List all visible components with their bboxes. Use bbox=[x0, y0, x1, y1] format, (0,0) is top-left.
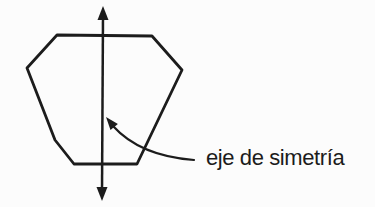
polygon-shape bbox=[27, 35, 182, 164]
axis-arrowhead-up-icon bbox=[98, 6, 109, 20]
axis-arrowhead-down-icon bbox=[97, 187, 108, 201]
figure-canvas: eje de simetría bbox=[0, 0, 375, 207]
axis-of-symmetry-label: eje de simetría bbox=[206, 147, 344, 169]
symmetry-diagram bbox=[0, 0, 375, 207]
symmetry-axis-line bbox=[102, 16, 103, 191]
